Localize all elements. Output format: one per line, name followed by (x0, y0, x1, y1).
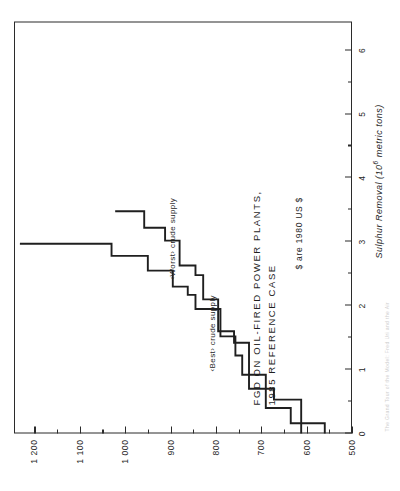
annotation-best-crude-supply: ‹Best› crude supply (208, 294, 217, 371)
x-tick-minor (348, 400, 352, 401)
x-tick-major (345, 304, 352, 305)
y-tick-major (261, 426, 262, 433)
x-tick-label: 2 (357, 303, 367, 308)
x-tick-label: 1 (357, 366, 367, 371)
y-tick-label: 600 (302, 439, 312, 473)
y-tick-major (171, 426, 172, 433)
y-tick-label: 1 100 (75, 439, 85, 473)
x-axis-title: Sulphur Removal (106 metric tons) (372, 104, 384, 258)
y-tick-label: 500 (347, 439, 357, 473)
x-tick-label: 5 (357, 111, 367, 116)
y-tick-minor (239, 429, 240, 433)
y-tick-minor (284, 429, 285, 433)
x-tick-label: 3 (357, 239, 367, 244)
y-tick-label: 900 (166, 439, 176, 473)
figure-stage: The Grand Tour of the Model: Fred Uri an… (0, 0, 400, 491)
y-tick-minor (193, 429, 194, 433)
x-tick-major (345, 176, 352, 177)
y-tick-label: 1 000 (120, 439, 130, 473)
x-tick-major (345, 432, 352, 433)
y-tick-major (307, 426, 308, 433)
x-tick-minor (348, 336, 352, 337)
y-tick-label: 700 (256, 439, 266, 473)
x-tick-label: 0 (357, 430, 367, 435)
x-tick-minor (348, 81, 352, 82)
x-tick-label: 4 (357, 175, 367, 180)
x-tick-label: 6 (357, 47, 367, 52)
x-tick-major (345, 49, 352, 50)
x-tick-minor (348, 272, 352, 273)
y-tick-label: 1 200 (29, 439, 39, 473)
y-tick-major (125, 426, 126, 433)
x-tick-minor (348, 208, 352, 209)
y-tick-minor (57, 429, 58, 433)
x-tick-major (345, 240, 352, 241)
y-tick-minor (148, 429, 149, 433)
y-tick-major (352, 426, 353, 433)
y-tick-minor (329, 429, 330, 433)
x-tick-minor (348, 144, 352, 145)
currency-note: $ are 1980 US $ (294, 197, 304, 269)
x-tick-major (345, 113, 352, 114)
x-tick-major (345, 368, 352, 369)
y-tick-label: 800 (211, 439, 221, 473)
y-tick-minor (102, 429, 103, 433)
y-tick-major (34, 426, 35, 433)
chart-title: FGD ON OIL-FIRED POWER PLANTS, 1985 REFE… (250, 190, 279, 405)
y-tick-major (216, 426, 217, 433)
y-tick-major (80, 426, 81, 433)
supply-curves (0, 0, 400, 491)
annotation-worst-crude-supply: ‹Worst› crude supply (168, 197, 177, 279)
